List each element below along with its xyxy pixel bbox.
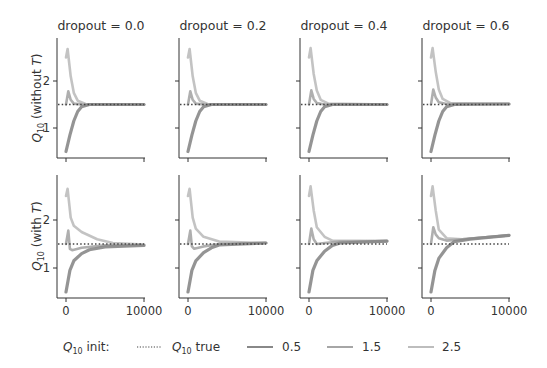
subplot-title: dropout = 0.0 (57, 18, 144, 33)
subplot-r0-c1: dropout = 0.2 (175, 18, 267, 162)
subplot-title: dropout = 0.2 (179, 18, 266, 33)
series-init-2.5 (431, 48, 509, 104)
series-init-0.5 (309, 105, 387, 152)
series-init-0.5 (188, 243, 266, 292)
x-tick-label: 10000 (126, 304, 163, 318)
row-y-labels: Q10 (without T)Q10 (with T) (30, 53, 46, 270)
legend-label-true: Q10 true (172, 340, 220, 356)
series-init-2.5 (309, 186, 387, 241)
series-init-0.5 (66, 105, 144, 152)
x-tick-label: 10000 (369, 304, 406, 318)
series-init-2.5 (66, 49, 144, 105)
series-init-2.5 (431, 186, 509, 239)
subplot-r1-c1: 010000 (175, 175, 284, 318)
x-tick-label: 0 (305, 304, 312, 318)
series-init-0.5 (66, 245, 144, 292)
x-tick-label: 10000 (491, 304, 528, 318)
figure: dropout = 0.012dropout = 0.2dropout = 0.… (0, 0, 547, 368)
legend: Q10 init:Q10 true0.51.52.5 (63, 340, 461, 356)
series-init-0.5 (431, 104, 509, 152)
x-tick-label: 10000 (248, 304, 285, 318)
subplot-r1-c3: 010000 (418, 175, 527, 318)
series-init-2.5 (66, 189, 144, 245)
subplot-grid: dropout = 0.012dropout = 0.2dropout = 0.… (43, 18, 528, 318)
subplot-r0-c0: dropout = 0.012 (43, 18, 145, 162)
series-init-2.5 (188, 49, 266, 105)
subplot-r0-c2: dropout = 0.4 (296, 18, 388, 162)
subplot-r0-c3: dropout = 0.6 (418, 18, 510, 162)
legend-label-0.5: 0.5 (282, 340, 301, 354)
x-tick-label: 0 (184, 304, 191, 318)
legend-label-2.5: 2.5 (442, 340, 461, 354)
series-init-2.5 (309, 48, 387, 104)
series-init-0.5 (309, 241, 387, 292)
series-init-2.5 (188, 189, 266, 243)
subplot-r1-c0: 12010000 (43, 175, 163, 318)
y-axis-label-row-0: Q10 (without T) (30, 53, 46, 142)
x-tick-label: 0 (62, 304, 69, 318)
legend-title: Q10 init: (63, 340, 109, 356)
series-init-0.5 (188, 105, 266, 152)
x-tick-label: 0 (427, 304, 434, 318)
subplot-title: dropout = 0.6 (422, 18, 509, 33)
subplot-title: dropout = 0.4 (300, 18, 387, 33)
legend-label-1.5: 1.5 (362, 340, 381, 354)
y-axis-label-row-1: Q10 (with T) (30, 201, 46, 270)
subplot-r1-c2: 010000 (296, 175, 405, 318)
